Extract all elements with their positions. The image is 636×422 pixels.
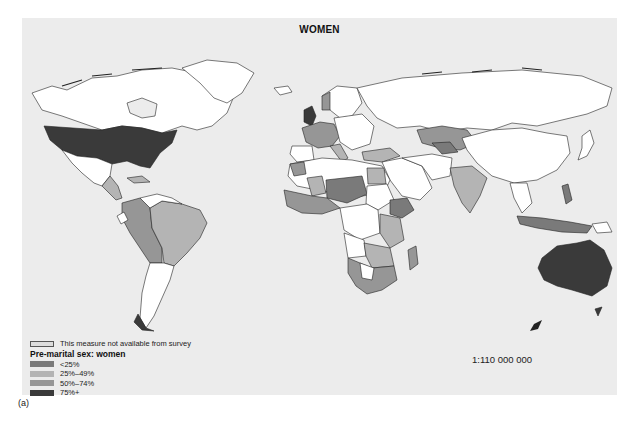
map-scale: 1:110 000 000 [472,354,532,365]
region-norway [322,92,330,110]
legend-item: 25%–49% [30,369,191,379]
legend-label-not-available: This measure not available from survey [60,339,191,348]
legend-item-not-available: This measure not available from survey [30,339,191,349]
legend-swatch-not-available [30,341,54,347]
region-caribbean [127,176,150,183]
legend-label: 25%–49% [60,369,94,378]
region-western-europe [302,122,340,148]
region-southern-cone [140,263,174,328]
region-antarctic-fragment [530,320,542,331]
region-indonesia [517,216,592,233]
region-madagascar [408,246,418,270]
region-india [450,166,487,213]
legend-item: 50%–74% [30,379,191,389]
legend: This measure not available from survey P… [30,339,191,398]
region-russia [357,70,612,132]
region-australia [538,240,612,296]
legend-item: 75%+ [30,388,191,398]
region-philippines [562,184,572,204]
figure-caption: (a) [18,398,29,408]
region-png [592,222,612,233]
legend-label: 50%–74% [60,379,94,388]
map-title: WOMEN [22,24,617,35]
region-niger-chad [326,176,367,203]
region-new-zealand [595,307,602,316]
region-usa [44,126,177,168]
region-east-africa [380,214,404,248]
region-iceland [274,86,292,95]
legend-swatch-75-plus [30,390,54,396]
legend-item: <25% [30,360,191,370]
legend-label: <25% [60,360,79,369]
map-panel: WOMEN This measure not available from su… [22,18,617,395]
legend-swatch-under-25 [30,361,54,367]
region-ethiopia [390,198,414,218]
region-egypt [367,168,386,184]
region-se-asia [510,183,532,213]
legend-swatch-25-49 [30,371,54,377]
legend-swatch-50-74 [30,380,54,386]
region-japan [578,130,594,160]
legend-title: Pre-marital sex: women [30,349,191,360]
region-iberia [290,146,314,162]
legend-label: 75%+ [60,388,79,397]
region-uk [304,106,316,126]
